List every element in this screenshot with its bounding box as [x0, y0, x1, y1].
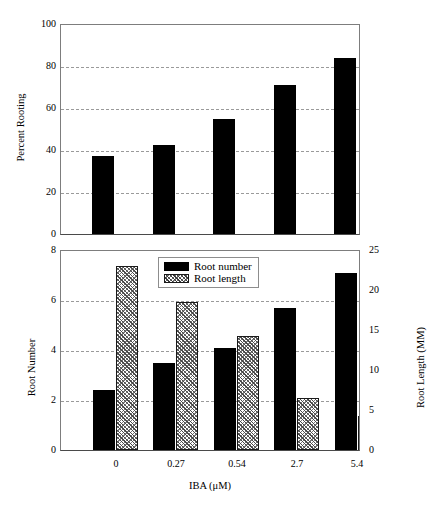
x-tick-label-27: 2.7 [291, 459, 304, 469]
bottom-y-tick-label-2: 2 [34, 395, 56, 405]
legend-swatch-solid-icon [164, 262, 189, 271]
top-y-tick-label-40: 40 [34, 145, 56, 155]
top-gridline-80 [61, 67, 359, 68]
bottom-right-tick-20 [359, 291, 360, 292]
top-bar-54 [334, 58, 356, 234]
top-y-tick-label-0: 0 [34, 229, 56, 239]
legend-entry-root-length: Root length [164, 273, 252, 284]
top-plot-area [60, 24, 360, 235]
bottom-y-right-tick-label-20: 20 [369, 285, 393, 295]
bottom-y-right-tick-label-0: 0 [369, 445, 393, 455]
top-tick-60 [60, 109, 61, 110]
x-tick-label-027: 0.27 [167, 459, 185, 469]
top-panel: Percent Rooting 100 80 60 40 20 0 [0, 0, 429, 242]
top-gridline-40 [61, 151, 359, 152]
top-tick-100 [60, 25, 61, 26]
bottom-y-tick-label-0: 0 [34, 445, 56, 455]
top-y-tick-label-20: 20 [34, 187, 56, 197]
bottom-tick-8 [60, 251, 61, 252]
top-bar-054 [213, 119, 235, 235]
bottom-y-right-tick-label-25: 25 [369, 245, 393, 255]
legend: Root number Root length [158, 257, 259, 288]
x-tick-label-0: 0 [114, 459, 119, 469]
x-axis-title: IBA (μM) [189, 480, 231, 491]
bottom-gridline-6 [61, 301, 359, 302]
legend-label-root-number: Root number [194, 261, 252, 272]
bottom-x-tick-2 [147, 450, 148, 451]
top-y-tick-label-100: 100 [34, 19, 56, 29]
top-y-tick-label-80: 80 [34, 61, 56, 71]
bottom-x-tick-5 [328, 450, 329, 451]
top-y-axis-title: Percent Rooting [15, 80, 26, 175]
bottom-y-right-tick-label-15: 15 [369, 325, 393, 335]
bottom-y-right-tick-label-5: 5 [369, 405, 393, 415]
bottom-plot-area: Root number Root length [60, 250, 360, 451]
bottom-bar-root-length-0 [116, 266, 138, 450]
bottom-tick-4 [60, 351, 61, 352]
top-bar-27 [274, 85, 296, 234]
bottom-right-tick-10 [359, 371, 360, 372]
bottom-right-tick-5 [359, 411, 360, 412]
bottom-y-tick-label-8: 8 [34, 245, 56, 255]
bottom-y-tick-label-4: 4 [34, 345, 56, 355]
bottom-bar-root-length-027 [176, 302, 198, 450]
bottom-y-right-tick-label-10: 10 [369, 365, 393, 375]
bottom-x-tick-1 [87, 450, 88, 451]
top-tick-40 [60, 151, 61, 152]
bottom-right-tick-25 [359, 251, 360, 252]
legend-label-root-length: Root length [194, 273, 246, 284]
x-tick-label-54: 5.4 [351, 459, 364, 469]
bottom-x-tick-3 [207, 450, 208, 451]
bottom-bar-root-length-54 [358, 416, 360, 450]
bottom-bar-root-number-054 [214, 348, 236, 451]
figure-root: Percent Rooting 100 80 60 40 20 0 [0, 0, 429, 508]
bottom-y-axis-right-title: Root Length (MM) [415, 303, 426, 433]
bottom-y-tick-label-6: 6 [34, 295, 56, 305]
bottom-bar-root-number-27 [274, 308, 296, 451]
bottom-tick-6 [60, 301, 61, 302]
bottom-bar-root-length-054 [237, 336, 259, 450]
legend-swatch-hatch-icon [164, 274, 189, 283]
bottom-tick-2 [60, 401, 61, 402]
legend-entry-root-number: Root number [164, 261, 252, 272]
bottom-right-tick-15 [359, 331, 360, 332]
bottom-x-tick-4 [268, 450, 269, 451]
x-tick-label-054: 0.54 [228, 459, 246, 469]
bottom-bar-root-number-027 [153, 363, 175, 451]
bottom-gridline-4 [61, 351, 359, 352]
bottom-bar-root-number-0 [93, 390, 115, 450]
bottom-bar-root-number-54 [335, 273, 357, 451]
top-tick-80 [60, 67, 61, 68]
bottom-panel: Root Number Root Length (MM) 8 6 4 2 0 2… [0, 242, 429, 508]
top-bar-027 [153, 145, 175, 234]
top-tick-20 [60, 193, 61, 194]
bottom-bar-root-length-27 [297, 398, 319, 450]
top-y-tick-label-60: 60 [34, 103, 56, 113]
top-gridline-60 [61, 109, 359, 110]
top-bar-0 [92, 156, 114, 234]
